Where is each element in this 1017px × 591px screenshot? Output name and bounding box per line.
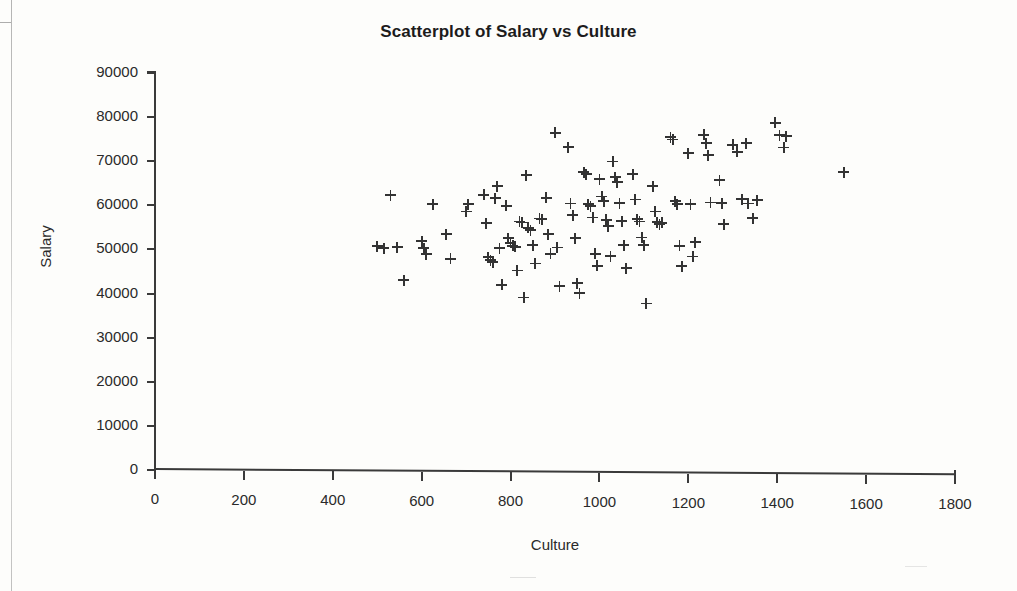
data-point [567, 210, 578, 221]
x-axis-tick-label: 400 [298, 491, 368, 508]
chart-title: Scatterplot of Salary vs Culture [0, 22, 1017, 42]
data-point [770, 117, 781, 128]
data-point [838, 167, 849, 178]
data-point [778, 142, 789, 153]
data-point [714, 175, 725, 186]
data-point [590, 248, 601, 259]
y-axis-title: Salary [37, 197, 54, 297]
data-point [565, 198, 576, 209]
x-axis-tick-label: 800 [476, 492, 546, 509]
data-point [574, 288, 585, 299]
x-axis-tick [154, 470, 156, 479]
data-point [527, 240, 538, 251]
data-point [685, 199, 696, 210]
plot-area [155, 73, 955, 470]
data-point [607, 156, 618, 167]
x-axis-tick-label: 1400 [742, 494, 812, 511]
data-point [718, 219, 729, 230]
data-point [581, 169, 592, 180]
data-point [641, 298, 652, 309]
data-point [512, 265, 523, 276]
data-point [621, 263, 632, 274]
y-axis-tick [147, 248, 155, 250]
data-point [518, 292, 529, 303]
data-point [510, 241, 521, 252]
data-point [398, 275, 409, 286]
data-point [701, 138, 712, 149]
x-axis-tick [776, 474, 778, 483]
y-axis-tick-label: 60000 [52, 195, 138, 212]
data-point [478, 189, 489, 200]
data-point [378, 243, 389, 254]
x-axis-tick-label: 600 [387, 492, 457, 509]
data-point [481, 218, 492, 229]
data-point [594, 174, 605, 185]
data-point [605, 251, 616, 262]
data-point [487, 257, 498, 268]
x-axis-tick-label: 1000 [564, 493, 634, 510]
data-point [392, 242, 403, 253]
x-axis-tick [598, 473, 600, 482]
data-point [385, 190, 396, 201]
data-point [603, 221, 614, 232]
y-axis-tick-label: 30000 [52, 328, 138, 345]
y-axis-tick [147, 425, 155, 427]
y-axis-tick-label: 10000 [52, 416, 138, 433]
data-point [463, 199, 474, 210]
data-point [585, 201, 596, 212]
data-point [612, 177, 623, 188]
y-axis-tick [147, 204, 155, 206]
data-point [592, 260, 603, 271]
x-axis-tick [865, 475, 867, 484]
data-point [554, 281, 565, 292]
scatter-chart: Scatterplot of Salary vs Culture 0100002… [0, 0, 1017, 591]
data-point [496, 279, 507, 290]
data-point [541, 192, 552, 203]
y-axis-tick [147, 116, 155, 118]
y-axis-tick-label: 70000 [52, 151, 138, 168]
y-axis-tick [147, 381, 155, 383]
x-axis-tick [687, 474, 689, 483]
x-axis-tick-label: 0 [120, 490, 190, 507]
data-point [536, 214, 547, 225]
data-point [647, 181, 658, 192]
y-axis-tick [147, 293, 155, 295]
data-point [781, 131, 792, 142]
x-axis-tick-label: 1800 [920, 495, 990, 512]
data-point [445, 253, 456, 264]
data-point [634, 216, 645, 227]
data-point [490, 193, 501, 204]
x-axis-tick [243, 471, 245, 480]
data-point [427, 199, 438, 210]
data-point [705, 197, 716, 208]
y-axis-tick-label: 0 [52, 460, 138, 477]
y-axis-tick-label: 20000 [52, 372, 138, 389]
data-point [587, 212, 598, 223]
data-point [598, 196, 609, 207]
data-point [550, 127, 561, 138]
data-point [501, 200, 512, 211]
data-point [650, 206, 661, 217]
data-point [521, 170, 532, 181]
data-point [614, 198, 625, 209]
x-axis-tick [332, 471, 334, 480]
data-point [716, 198, 727, 209]
data-point [752, 195, 763, 206]
y-axis-tick-label: 50000 [52, 239, 138, 256]
data-point [563, 142, 574, 153]
data-point [667, 134, 678, 145]
y-axis-tick [147, 160, 155, 162]
data-point [630, 194, 641, 205]
data-point [570, 233, 581, 244]
data-point [421, 249, 432, 260]
data-point [674, 240, 685, 251]
data-point [627, 169, 638, 180]
y-axis-tick-label: 90000 [52, 63, 138, 80]
x-axis-tick-label: 1200 [653, 494, 723, 511]
x-axis-tick [954, 475, 956, 484]
data-point [492, 181, 503, 192]
y-axis-tick [147, 72, 155, 74]
y-axis-tick-label: 40000 [52, 284, 138, 301]
data-point [494, 243, 505, 254]
data-point [683, 148, 694, 159]
